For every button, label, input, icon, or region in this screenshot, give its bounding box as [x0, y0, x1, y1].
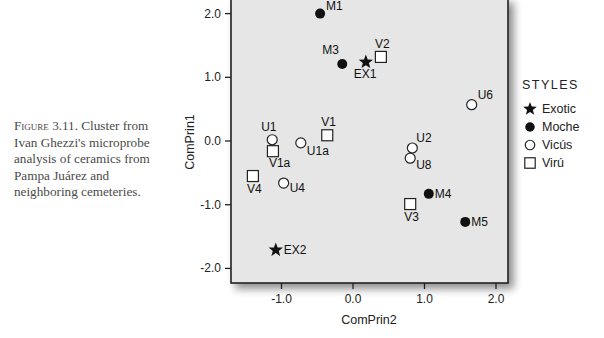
filled-circle-marker-icon	[337, 59, 347, 69]
legend-entry-label: Virú	[542, 156, 564, 170]
point-label: V1	[321, 115, 336, 129]
y-axis-title: ComPrin1	[183, 114, 197, 170]
open-square-legend-icon	[525, 158, 535, 168]
x-tick-label: 1.0	[416, 292, 433, 306]
legend-entry-label: Vicús	[542, 138, 572, 152]
open-circle-marker-icon	[267, 135, 277, 145]
point-label: U8	[416, 158, 432, 172]
open-square-marker-icon	[375, 51, 386, 62]
data-point: M5	[460, 215, 488, 229]
point-label: V4	[247, 182, 262, 196]
point-label: M1	[326, 0, 343, 13]
point-label: M4	[435, 187, 452, 201]
point-label: U6	[478, 88, 494, 102]
point-label: U1	[261, 120, 277, 134]
point-label: M3	[322, 43, 339, 57]
x-tick-label: 2.0	[488, 292, 505, 306]
point-label: EX2	[284, 243, 307, 257]
star-legend-icon	[523, 102, 537, 115]
legend-entry-label: Moche	[542, 120, 580, 134]
x-axis-title: ComPrin2	[341, 313, 397, 327]
point-label: U2	[416, 131, 432, 145]
filled-circle-marker-icon	[460, 217, 470, 227]
open-circle-marker-icon	[296, 138, 306, 148]
point-label: EX1	[354, 67, 377, 81]
open-square-marker-icon	[247, 171, 258, 182]
y-tick-label: -1.0	[200, 198, 221, 212]
open-square-marker-icon	[405, 199, 416, 210]
open-circle-marker-icon	[279, 178, 289, 188]
open-square-marker-icon	[322, 130, 333, 141]
point-label: V3	[404, 210, 419, 224]
data-point: M4	[424, 187, 452, 201]
y-tick-label: 2.0	[204, 7, 221, 21]
open-circle-legend-icon	[525, 140, 535, 150]
x-tick-label: -1.0	[271, 292, 292, 306]
legend-entry-label: Exotic	[542, 102, 576, 116]
legend: STYLESExoticMocheVicúsVirú	[522, 78, 580, 170]
filled-circle-legend-icon	[525, 122, 535, 132]
filled-circle-marker-icon	[315, 9, 325, 19]
x-tick-label: 0.0	[345, 292, 362, 306]
point-label: M5	[471, 215, 488, 229]
legend-title: STYLES	[522, 78, 579, 92]
open-square-marker-icon	[267, 146, 278, 157]
open-circle-marker-icon	[405, 153, 415, 163]
point-label: V1a	[269, 156, 291, 170]
point-label: V2	[375, 37, 390, 51]
filled-circle-marker-icon	[424, 189, 434, 199]
y-tick-label: 1.0	[204, 70, 221, 84]
open-circle-marker-icon	[467, 100, 477, 110]
point-label: U1a	[307, 144, 329, 158]
scatter-chart: 2.01.00.0-1.0-2.0-1.00.01.02.0ComPrin2Co…	[0, 0, 604, 338]
y-tick-label: -2.0	[200, 261, 221, 275]
y-tick-label: 0.0	[204, 134, 221, 148]
point-label: U4	[290, 181, 306, 195]
